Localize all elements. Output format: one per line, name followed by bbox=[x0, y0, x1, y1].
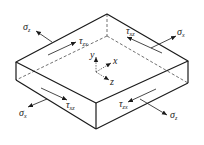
sigma-z-top-label: σz bbox=[23, 21, 31, 33]
tau-zx-top-arrow bbox=[48, 42, 76, 55]
coordinate-axes bbox=[96, 57, 111, 80]
sigma-z-top-arrow bbox=[36, 31, 52, 42]
axis-x-label: x bbox=[112, 55, 118, 66]
sigma-x-top-label: σx bbox=[177, 26, 185, 38]
tau-zx-top-label: τzx bbox=[79, 35, 88, 47]
sigma-z-bottom-arrow bbox=[140, 99, 167, 115]
axis-y-label: y bbox=[89, 49, 95, 60]
sigma-z-bottom-label: σz bbox=[170, 109, 178, 121]
axis-z-label: z bbox=[109, 76, 114, 87]
tau-xz-bottom-label: τxz bbox=[66, 99, 75, 111]
sigma-x-bottom-arrow bbox=[28, 99, 47, 107]
tau-zx-bottom-label: τzx bbox=[119, 98, 128, 110]
plate-stress-diagram: y x z σz τzx τxz σx σx τxz τzx bbox=[0, 0, 204, 145]
sigma-x-bottom-label: σx bbox=[19, 107, 27, 119]
tau-xz-top-label: τxz bbox=[126, 25, 135, 37]
